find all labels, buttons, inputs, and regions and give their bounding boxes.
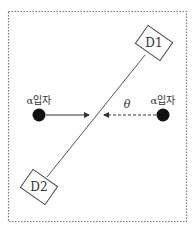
left-alpha-particle	[33, 109, 46, 122]
right-particle-label: α입자	[151, 94, 176, 106]
diagram-canvas: D1 D2 α입자 α입자 θ	[0, 0, 195, 231]
target-foil-line	[47, 55, 145, 177]
detector-d1-label: D1	[145, 36, 162, 50]
detector-d2-label: D2	[30, 180, 47, 194]
theta-label: θ	[124, 98, 131, 111]
right-alpha-particle	[157, 109, 170, 122]
left-particle-label: α입자	[27, 94, 52, 106]
